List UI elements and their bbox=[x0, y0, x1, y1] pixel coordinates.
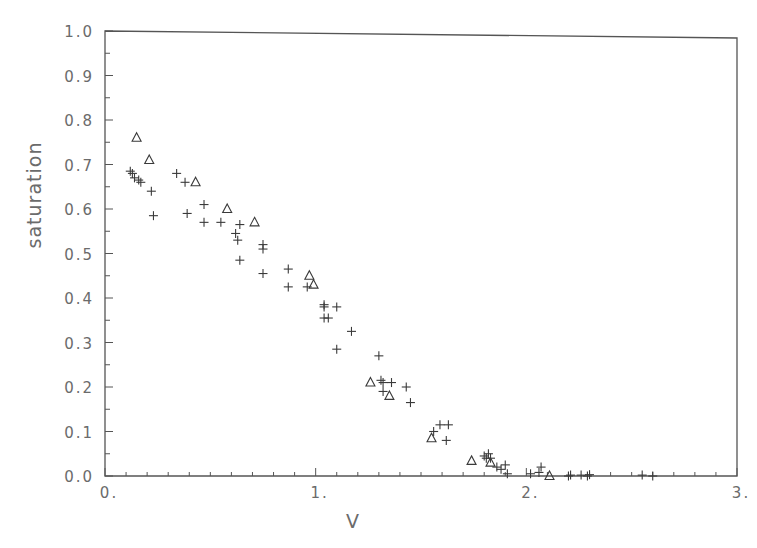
y-tick-label: 0.1 bbox=[64, 424, 94, 442]
data-markers bbox=[126, 133, 657, 481]
plus-marker bbox=[233, 236, 242, 245]
triangle-marker bbox=[191, 177, 200, 186]
plus-marker bbox=[235, 256, 244, 265]
y-tick-label: 0.6 bbox=[64, 201, 94, 219]
plus-marker bbox=[435, 420, 444, 429]
triangle-marker bbox=[467, 456, 476, 465]
plus-marker bbox=[526, 469, 535, 478]
plus-marker bbox=[585, 470, 594, 479]
plus-marker bbox=[216, 218, 225, 227]
y-axis-title: saturation bbox=[23, 142, 45, 249]
y-tick-label: 1.0 bbox=[64, 23, 94, 41]
plus-marker bbox=[231, 229, 240, 238]
x-axis-tick-labels: 0.1.2.3. bbox=[100, 484, 750, 502]
plus-marker bbox=[387, 378, 396, 387]
plus-marker bbox=[284, 265, 293, 274]
plus-marker bbox=[497, 465, 506, 474]
plus-marker bbox=[149, 211, 158, 220]
plus-marker bbox=[577, 471, 586, 480]
y-tick-label: 0.3 bbox=[64, 335, 94, 353]
plus-marker bbox=[379, 387, 388, 396]
plus-marker bbox=[259, 240, 268, 249]
triangle-marker bbox=[250, 217, 259, 226]
plot-frame bbox=[105, 31, 737, 476]
plus-marker bbox=[147, 187, 156, 196]
y-axis-tick-labels: 0.00.10.20.30.40.50.60.70.80.91.0 bbox=[64, 23, 94, 486]
x-axis-title: V bbox=[346, 510, 360, 532]
triangle-marker bbox=[305, 271, 314, 280]
triangle-marker bbox=[132, 133, 141, 142]
plus-marker bbox=[235, 220, 244, 229]
y-tick-label: 0.2 bbox=[64, 379, 94, 397]
triangle-marker bbox=[223, 204, 232, 213]
plus-marker bbox=[136, 178, 145, 187]
y-tick-label: 0.0 bbox=[64, 468, 94, 486]
plus-marker bbox=[537, 463, 546, 472]
triangle-marker bbox=[366, 378, 375, 387]
plus-marker bbox=[402, 383, 411, 392]
plus-marker bbox=[128, 169, 137, 178]
plus-marker bbox=[486, 454, 495, 463]
x-tick-label: 2. bbox=[521, 484, 539, 502]
plus-marker bbox=[200, 200, 209, 209]
plus-marker bbox=[406, 398, 415, 407]
plus-marker bbox=[564, 472, 573, 481]
y-tick-label: 0.7 bbox=[64, 157, 94, 175]
plus-marker bbox=[374, 351, 383, 360]
y-tick-label: 0.9 bbox=[64, 68, 94, 86]
plus-marker bbox=[648, 472, 657, 481]
triangle-marker bbox=[427, 433, 436, 442]
plus-marker bbox=[583, 472, 592, 481]
plus-marker bbox=[332, 302, 341, 311]
plus-marker bbox=[347, 327, 356, 336]
y-axis-ticks bbox=[105, 31, 113, 476]
plus-marker bbox=[284, 282, 293, 291]
triangle-marker bbox=[145, 155, 154, 164]
y-tick-label: 0.5 bbox=[64, 246, 94, 264]
plus-marker bbox=[130, 173, 139, 182]
plus-marker bbox=[134, 176, 143, 185]
plus-marker bbox=[444, 420, 453, 429]
plus-marker bbox=[332, 345, 341, 354]
plus-marker bbox=[259, 269, 268, 278]
y-tick-label: 0.8 bbox=[64, 112, 94, 130]
plus-marker bbox=[638, 471, 647, 480]
plus-marker bbox=[320, 302, 329, 311]
plus-marker bbox=[480, 451, 489, 460]
x-tick-label: 3. bbox=[732, 484, 750, 502]
plus-marker bbox=[501, 460, 510, 469]
plus-marker bbox=[376, 376, 385, 385]
triangle-marker bbox=[545, 471, 554, 480]
plus-marker bbox=[503, 469, 512, 478]
scatter-chart: 0.00.10.20.30.40.50.60.70.80.91.0 0.1.2.… bbox=[0, 0, 757, 548]
plus-marker bbox=[303, 282, 312, 291]
plus-marker bbox=[183, 209, 192, 218]
plus-marker bbox=[200, 218, 209, 227]
triangle-marker bbox=[385, 391, 394, 400]
plus-marker bbox=[379, 378, 388, 387]
plus-marker bbox=[181, 178, 190, 187]
plus-marker bbox=[442, 436, 451, 445]
y-tick-label: 0.4 bbox=[64, 290, 94, 308]
plus-marker bbox=[566, 471, 575, 480]
plus-marker bbox=[324, 314, 333, 323]
plus-marker bbox=[126, 167, 135, 176]
x-tick-label: 0. bbox=[100, 484, 118, 502]
plus-marker bbox=[484, 449, 493, 458]
plus-marker bbox=[172, 169, 181, 178]
x-tick-label: 1. bbox=[311, 484, 329, 502]
